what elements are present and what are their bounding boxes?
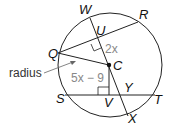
label-q: Q xyxy=(48,46,58,61)
circle-figure: W R U Q C S V Y T X 2x 5x − 9 radius xyxy=(0,0,171,129)
right-angle-v xyxy=(98,87,109,95)
geometry-diagram: W R U Q C S V Y T X 2x 5x − 9 radius xyxy=(0,0,171,129)
label-v: V xyxy=(104,95,114,110)
label-t: T xyxy=(154,92,163,107)
label-u: U xyxy=(96,23,106,38)
label-s: S xyxy=(56,91,65,106)
radius-qc xyxy=(58,53,109,65)
label-y: Y xyxy=(124,80,134,95)
label-x: X xyxy=(127,111,138,126)
center-point xyxy=(107,63,111,67)
label-c: C xyxy=(113,58,123,73)
expression-cu: 2x xyxy=(105,42,118,56)
expression-cv: 5x − 9 xyxy=(71,71,104,85)
label-r: R xyxy=(139,7,148,22)
label-w: W xyxy=(79,2,93,17)
radius-label: radius xyxy=(9,66,42,80)
right-angle-u xyxy=(91,44,101,51)
